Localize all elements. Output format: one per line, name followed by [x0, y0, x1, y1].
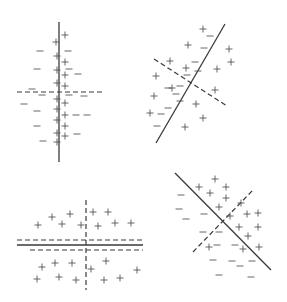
plus-marker: [62, 32, 69, 39]
plus-marker: [227, 213, 234, 220]
plus-marker: [128, 220, 135, 227]
plus-marker: [196, 184, 203, 191]
plus-marker: [185, 42, 192, 49]
plus-marker: [39, 264, 46, 271]
plus-marker: [34, 276, 41, 283]
panel-bottom-left: [17, 200, 143, 290]
plus-marker: [117, 275, 124, 282]
plus-marker: [78, 222, 85, 229]
plus-marker: [206, 244, 213, 251]
plus-marker: [59, 221, 66, 228]
plus-marker: [62, 123, 69, 130]
plus-marker: [245, 233, 252, 240]
plus-marker: [103, 258, 110, 265]
plus-marker: [255, 210, 262, 217]
plus-marker: [200, 26, 207, 33]
plus-marker: [67, 211, 74, 218]
plus-marker: [62, 100, 69, 107]
plus-marker: [226, 46, 233, 53]
plus-marker: [90, 209, 97, 216]
plus-marker: [244, 211, 251, 218]
plus-marker: [214, 66, 221, 73]
plus-marker: [73, 277, 80, 284]
plus-marker: [255, 224, 262, 231]
plus-marker: [62, 112, 69, 119]
plus-marker: [182, 124, 189, 131]
plus-marker: [62, 83, 69, 90]
separator-figure: [0, 0, 287, 302]
plus-marker: [153, 73, 160, 80]
plus-marker: [207, 190, 214, 197]
plus-marker: [236, 224, 243, 231]
plus-marker: [147, 110, 154, 117]
plus-marker: [167, 58, 174, 65]
plus-marker: [223, 195, 230, 202]
plus-marker: [223, 184, 230, 191]
panel-top-right: [147, 24, 235, 143]
plus-marker: [212, 176, 219, 183]
plus-marker: [212, 87, 219, 94]
plus-marker: [151, 93, 158, 100]
plus-marker: [228, 59, 235, 66]
dashed-normal-line: [154, 59, 227, 106]
plus-marker: [88, 266, 95, 273]
plus-marker: [62, 72, 69, 79]
plus-marker: [256, 244, 263, 251]
plus-marker: [49, 214, 56, 221]
plus-marker: [240, 246, 247, 253]
plus-marker: [56, 274, 63, 281]
plus-marker: [95, 223, 102, 230]
panel-top-left: [17, 22, 103, 162]
plus-marker: [112, 220, 119, 227]
panel-bottom-right: [175, 173, 271, 277]
plus-marker: [62, 133, 69, 140]
plus-marker: [105, 209, 112, 216]
plus-marker: [52, 260, 59, 267]
plus-marker: [200, 115, 207, 122]
plus-marker: [193, 101, 200, 108]
plus-marker: [62, 59, 69, 66]
plus-marker: [101, 277, 108, 284]
plus-marker: [183, 65, 190, 72]
separator-line: [156, 24, 225, 143]
plus-marker: [69, 260, 76, 267]
plus-marker: [216, 204, 223, 211]
plus-marker: [134, 267, 141, 274]
plus-marker: [35, 222, 42, 229]
